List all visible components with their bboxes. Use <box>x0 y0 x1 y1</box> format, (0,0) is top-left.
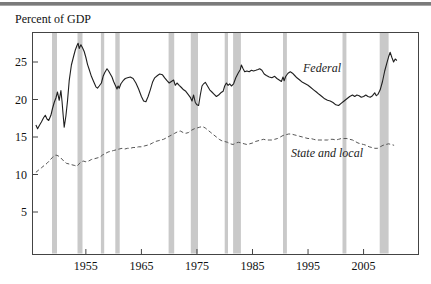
x-tick-label: 2005 <box>352 259 376 273</box>
x-tick-label: 1985 <box>240 259 264 273</box>
gdp-chart: 510152025195519651975198519952005 <box>0 0 431 284</box>
recession-band <box>169 33 175 254</box>
recession-band <box>115 33 119 254</box>
recession-band <box>78 33 83 254</box>
x-tick-label: 1955 <box>74 259 98 273</box>
state-and-local-series-label: State and local <box>291 146 363 161</box>
y-tick-label: 20 <box>15 93 27 107</box>
y-tick-label: 10 <box>15 168 27 182</box>
y-tick-label: 25 <box>15 55 27 69</box>
recession-band <box>283 33 287 254</box>
x-tick-label: 1975 <box>185 259 209 273</box>
recession-band <box>52 33 57 254</box>
recession-band <box>343 33 347 254</box>
y-tick-label: 15 <box>15 130 27 144</box>
recession-band <box>191 33 198 254</box>
y-tick-label: 5 <box>21 205 27 219</box>
x-tick-label: 1965 <box>129 259 153 273</box>
federal-series-label: Federal <box>303 61 341 76</box>
recession-band <box>225 33 228 254</box>
recession-band <box>380 33 389 254</box>
x-tick-label: 1995 <box>296 259 320 273</box>
recession-band <box>101 33 104 254</box>
